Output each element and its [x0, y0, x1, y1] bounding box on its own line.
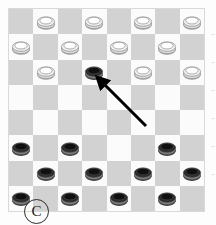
black-piece[interactable]: [84, 63, 104, 81]
board-square-r3c0[interactable]: [9, 85, 33, 110]
board-square-r1c5[interactable]: [131, 34, 155, 59]
page-edge-tick: [211, 90, 215, 91]
board-square-r0c1[interactable]: [33, 9, 57, 34]
board-square-r3c4[interactable]: [107, 85, 131, 110]
board-square-r3c7[interactable]: [180, 85, 204, 110]
black-piece[interactable]: [109, 189, 129, 207]
board-square-r0c0[interactable]: [9, 9, 33, 34]
white-piece[interactable]: [109, 38, 129, 56]
board-square-r5c5[interactable]: [131, 135, 155, 160]
white-piece[interactable]: [157, 38, 177, 56]
white-piece[interactable]: [133, 13, 153, 31]
board-square-r7c5[interactable]: [131, 186, 155, 211]
board-square-r0c7[interactable]: [180, 9, 204, 34]
white-piece[interactable]: [84, 13, 104, 31]
black-piece[interactable]: [182, 164, 202, 182]
board-square-r3c1[interactable]: [33, 85, 57, 110]
board-square-r6c0[interactable]: [9, 161, 33, 186]
board-square-r4c6[interactable]: [155, 110, 179, 135]
board-square-r7c7[interactable]: [180, 186, 204, 211]
board-square-r5c1[interactable]: [33, 135, 57, 160]
panel-label-text: C: [31, 204, 41, 219]
white-piece[interactable]: [36, 13, 56, 31]
board-square-r4c4[interactable]: [107, 110, 131, 135]
board-square-r6c1[interactable]: [33, 161, 57, 186]
board-square-r2c0[interactable]: [9, 60, 33, 85]
board-square-r3c2[interactable]: [58, 85, 82, 110]
black-piece[interactable]: [11, 139, 31, 157]
board-square-r0c4[interactable]: [107, 9, 131, 34]
board-square-r6c5[interactable]: [131, 161, 155, 186]
board-square-r1c6[interactable]: [155, 34, 179, 59]
board-square-r4c7[interactable]: [180, 110, 204, 135]
black-piece[interactable]: [157, 139, 177, 157]
board-square-r4c5[interactable]: [131, 110, 155, 135]
board-square-r7c6[interactable]: [155, 186, 179, 211]
board-square-r3c6[interactable]: [155, 85, 179, 110]
board-square-r4c1[interactable]: [33, 110, 57, 135]
board-square-r0c5[interactable]: [131, 9, 155, 34]
board-square-r6c6[interactable]: [155, 161, 179, 186]
board-square-r4c2[interactable]: [58, 110, 82, 135]
checkers-figure: C: [0, 0, 216, 225]
board-square-r6c2[interactable]: [58, 161, 82, 186]
board-square-r0c2[interactable]: [58, 9, 82, 34]
white-piece[interactable]: [182, 13, 202, 31]
checkers-board[interactable]: [8, 8, 205, 212]
board-square-r4c0[interactable]: [9, 110, 33, 135]
page-edge-tick: [211, 174, 215, 175]
board-square-r2c5[interactable]: [131, 60, 155, 85]
board-square-r5c0[interactable]: [9, 135, 33, 160]
white-piece[interactable]: [36, 63, 56, 81]
board-square-r2c7[interactable]: [180, 60, 204, 85]
panel-label: C: [24, 199, 49, 224]
white-piece[interactable]: [60, 38, 80, 56]
board-square-r6c4[interactable]: [107, 161, 131, 186]
white-piece[interactable]: [133, 63, 153, 81]
board-square-r1c1[interactable]: [33, 34, 57, 59]
board-square-r2c2[interactable]: [58, 60, 82, 85]
page-edge-tick: [211, 146, 215, 147]
black-piece[interactable]: [36, 164, 56, 182]
board-square-r3c5[interactable]: [131, 85, 155, 110]
board-square-r6c3[interactable]: [82, 161, 106, 186]
board-square-r5c7[interactable]: [180, 135, 204, 160]
board-square-r1c0[interactable]: [9, 34, 33, 59]
board-square-r2c1[interactable]: [33, 60, 57, 85]
board-square-r0c6[interactable]: [155, 9, 179, 34]
board-square-r5c2[interactable]: [58, 135, 82, 160]
board-square-r2c6[interactable]: [155, 60, 179, 85]
board-square-r5c3[interactable]: [82, 135, 106, 160]
black-piece[interactable]: [133, 164, 153, 182]
board-square-r3c3[interactable]: [82, 85, 106, 110]
board-grid: [9, 9, 204, 211]
page-edge-tick: [211, 34, 215, 35]
board-square-r7c2[interactable]: [58, 186, 82, 211]
black-piece[interactable]: [84, 164, 104, 182]
board-square-r1c4[interactable]: [107, 34, 131, 59]
board-square-r5c6[interactable]: [155, 135, 179, 160]
page-edge-tick: [211, 62, 215, 63]
board-square-r7c3[interactable]: [82, 186, 106, 211]
board-square-r2c3[interactable]: [82, 60, 106, 85]
board-square-r7c4[interactable]: [107, 186, 131, 211]
board-square-r2c4[interactable]: [107, 60, 131, 85]
page-edge-tick: [211, 118, 215, 119]
board-square-r1c2[interactable]: [58, 34, 82, 59]
board-square-r6c7[interactable]: [180, 161, 204, 186]
board-square-r0c3[interactable]: [82, 9, 106, 34]
black-piece[interactable]: [157, 189, 177, 207]
board-square-r1c7[interactable]: [180, 34, 204, 59]
board-square-r4c3[interactable]: [82, 110, 106, 135]
board-square-r5c4[interactable]: [107, 135, 131, 160]
white-piece[interactable]: [182, 63, 202, 81]
board-square-r1c3[interactable]: [82, 34, 106, 59]
black-piece[interactable]: [60, 189, 80, 207]
black-piece[interactable]: [60, 139, 80, 157]
white-piece[interactable]: [11, 38, 31, 56]
